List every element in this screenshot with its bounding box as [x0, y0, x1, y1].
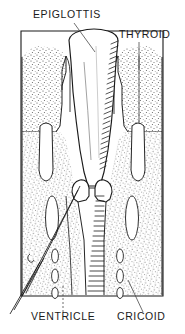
- thyroid-cartilage-left-fill: [22, 46, 66, 132]
- vestibular-fold-left: [39, 123, 53, 181]
- larynx-drawing-canvas: EPIGLOTTIS THYROID VENTRICLE CRICOID: [0, 0, 185, 334]
- tracheal-ring-left-3: [52, 288, 58, 299]
- tracheal-ring-right-1: [117, 249, 124, 263]
- label-thyroid: THYROID: [119, 28, 170, 40]
- vocal-fold-left: [72, 180, 89, 202]
- tracheal-ring-left-2: [52, 269, 59, 283]
- vestibular-fold-right: [131, 123, 145, 181]
- tracheal-ring-left-1: [52, 249, 59, 263]
- tracheal-ring-right-2: [117, 269, 124, 283]
- label-cricoid: CRICOID: [117, 310, 166, 322]
- tracheal-ring-right-3: [117, 288, 123, 299]
- label-epiglottis: EPIGLOTTIS: [33, 8, 101, 20]
- anatomical-figure-larynx-coronal-section: EPIGLOTTIS THYROID VENTRICLE CRICOID: [0, 0, 185, 334]
- laryngeal-ventricle-right: [126, 196, 139, 240]
- thyroid-cartilage-right-fill: [118, 46, 162, 132]
- vocal-fold-right: [95, 180, 112, 202]
- label-ventricle: VENTRICLE: [31, 310, 95, 322]
